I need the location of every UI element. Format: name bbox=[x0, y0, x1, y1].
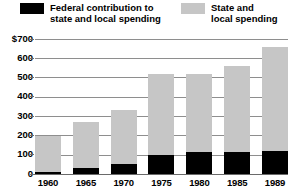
plot-area bbox=[35, 39, 288, 174]
bar-1965 bbox=[73, 122, 99, 174]
bar-segment-state-1960 bbox=[35, 136, 61, 172]
y-tick-mark bbox=[30, 96, 34, 97]
bar-segment-state-1970 bbox=[111, 110, 137, 164]
y-tick-mark bbox=[30, 77, 34, 78]
x-axis: 1960 1965 1970 1975 1980 1985 1989 bbox=[35, 177, 288, 188]
y-axis: $700 600 500 400 300 200 100 0 bbox=[0, 33, 33, 181]
legend-item-state: State and local spending bbox=[181, 2, 278, 24]
y-tick-mark bbox=[30, 39, 34, 40]
legend-label-federal: Federal contribution to state and local … bbox=[50, 2, 161, 24]
bar-segment-federal-1970 bbox=[111, 164, 137, 174]
chart-legend: Federal contribution to state and local … bbox=[0, 0, 293, 30]
bar-segment-federal-1960 bbox=[35, 172, 61, 174]
bar-1975 bbox=[148, 74, 174, 174]
bar-segment-federal-1975 bbox=[148, 155, 174, 174]
y-tick-mark bbox=[30, 116, 34, 117]
bar-segment-state-1965 bbox=[73, 122, 99, 168]
bar-1989 bbox=[262, 47, 288, 174]
bar-1985 bbox=[224, 66, 250, 174]
chart-root: Federal contribution to state and local … bbox=[0, 0, 293, 192]
x-tick-label-1965: 1965 bbox=[73, 177, 99, 188]
x-tick-label-1980: 1980 bbox=[186, 177, 212, 188]
x-tick-label-1985: 1985 bbox=[224, 177, 250, 188]
bar-segment-state-1975 bbox=[148, 74, 174, 155]
bar-segment-federal-1980 bbox=[186, 152, 212, 174]
x-axis-line bbox=[32, 174, 288, 175]
y-tick-mark bbox=[30, 135, 34, 136]
bar-1970 bbox=[111, 110, 137, 174]
x-tick-label-1975: 1975 bbox=[148, 177, 174, 188]
bar-segment-state-1985 bbox=[224, 66, 250, 152]
legend-swatch-federal-icon bbox=[20, 3, 44, 14]
bar-segment-federal-1965 bbox=[73, 168, 99, 174]
bar-1960 bbox=[35, 136, 61, 174]
bar-segment-state-1989 bbox=[262, 47, 288, 151]
x-tick-label-1960: 1960 bbox=[35, 177, 61, 188]
bar-segment-federal-1989 bbox=[262, 151, 288, 174]
legend-label-state: State and local spending bbox=[211, 2, 278, 24]
y-tick-mark bbox=[30, 154, 34, 155]
x-tick-label-1989: 1989 bbox=[262, 177, 288, 188]
legend-item-federal: Federal contribution to state and local … bbox=[20, 2, 161, 24]
y-tick-mark bbox=[30, 58, 34, 59]
bar-segment-state-1980 bbox=[186, 74, 212, 152]
bar-segment-federal-1985 bbox=[224, 152, 250, 174]
bar-group bbox=[35, 39, 288, 174]
x-tick-label-1970: 1970 bbox=[111, 177, 137, 188]
legend-swatch-state-icon bbox=[181, 3, 205, 14]
bar-1980 bbox=[186, 74, 212, 174]
